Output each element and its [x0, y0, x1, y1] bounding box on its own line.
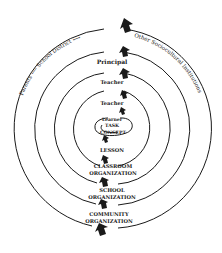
label-learner: Learner [102, 117, 123, 122]
label-concept: CONCEPT [100, 130, 126, 135]
label-classroom: CLASSROOM [94, 163, 133, 169]
arrow-up-icon [119, 107, 126, 115]
concentric-diagram: Principal Teacher Teacher Parents ⟵ Scho… [0, 0, 222, 253]
label-principal: Principal [97, 58, 128, 66]
arrow-up-icon [98, 199, 108, 209]
label-school: SCHOOL [99, 187, 125, 193]
arrow-up-icon [99, 177, 109, 187]
label-community: COMMUNITY [89, 211, 129, 217]
arrow-up-icon [119, 46, 130, 57]
label-teacher-inner: Teacher [101, 100, 124, 106]
arrow-up-icon [102, 135, 109, 143]
label-lesson: LESSON [100, 147, 124, 153]
arrow-up-icon [120, 18, 133, 33]
label-school-org: ORGANIZATION [88, 194, 136, 200]
arrow-up-icon [95, 223, 108, 236]
label-parents-schooldistrict: Parents ⟵ School District ⟷ [18, 34, 81, 96]
label-other-institutions: Other Sociocultural Institutions [134, 32, 203, 94]
label-classroom-org: ORGANIZATION [89, 170, 137, 176]
arrow-up-icon [120, 90, 128, 99]
label-task: TASK [105, 123, 120, 128]
label-community-org: ORGANIZATION [85, 218, 133, 224]
ring-lesson [74, 91, 104, 166]
label-teacher-outer: Teacher [101, 79, 124, 85]
